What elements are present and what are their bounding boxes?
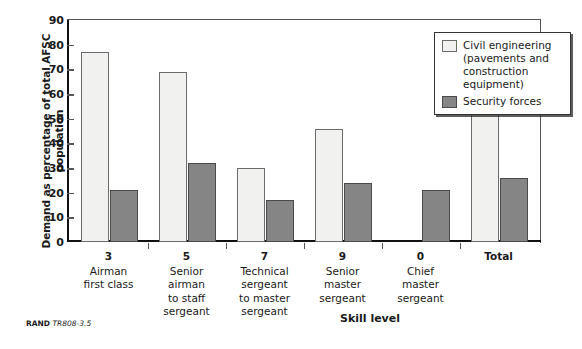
x-category-label-5: 5 Seniorairmanto staffsergeant — [148, 250, 226, 319]
legend-swatch-civil-engineering — [442, 40, 457, 52]
bar-civil-engineering-7 — [237, 168, 265, 242]
source-note: RAND TR808-3.5 — [26, 319, 91, 328]
bar-group-3 — [70, 20, 148, 242]
y-tick-label-0: 0 — [0, 236, 64, 249]
bar-security-forces-9 — [344, 183, 372, 242]
x-category-code-3: 3 — [70, 250, 148, 264]
x-tick-mark-1 — [148, 243, 150, 249]
y-tick-label-70: 70 — [0, 63, 64, 76]
chart-legend: Civil engineering (pavements and constru… — [434, 32, 571, 115]
y-tick-label-80: 80 — [0, 38, 64, 51]
x-category-name-9: Seniormastersergeant — [304, 265, 382, 306]
x-category-name-5: Seniorairmanto staffsergeant — [148, 265, 226, 319]
bar-security-forces-0 — [422, 190, 450, 242]
x-category-name-7: Technicalsergeantto mastersergeant — [226, 265, 304, 319]
y-tick-label-40: 40 — [0, 137, 64, 150]
x-category-name-0: Chiefmastersergeant — [382, 265, 460, 306]
chart-figure: Demand as percentage of total AFSC popul… — [0, 0, 582, 349]
y-tick-label-90: 90 — [0, 14, 64, 27]
bar-security-forces-3 — [110, 190, 138, 242]
x-category-name-3: Airmanfirst class — [70, 265, 148, 292]
bar-security-forces-5 — [188, 163, 216, 242]
legend-label-security-forces: Security forces — [463, 95, 541, 108]
y-tick-label-20: 20 — [0, 186, 64, 199]
y-tick-label-50: 50 — [0, 112, 64, 125]
bar-security-forces-7 — [266, 200, 294, 242]
y-tick-label-10: 10 — [0, 211, 64, 224]
legend-item-civil-engineering: Civil engineering (pavements and constru… — [442, 39, 563, 91]
y-tick-label-60: 60 — [0, 88, 64, 101]
bar-civil-engineering-total — [471, 99, 499, 242]
x-category-label-3: 3 Airmanfirst class — [70, 250, 148, 292]
legend-item-security-forces: Security forces — [442, 95, 563, 108]
bar-group-7 — [226, 20, 304, 242]
x-category-code-5: 5 — [148, 250, 226, 264]
legend-label-civil-engineering: Civil engineering (pavements and constru… — [463, 39, 563, 91]
bar-group-9 — [304, 20, 382, 242]
x-category-code-9: 9 — [304, 250, 382, 264]
bar-civil-engineering-3 — [81, 52, 109, 242]
x-axis-title: Skill level — [340, 312, 400, 325]
bar-civil-engineering-5 — [159, 72, 187, 242]
x-category-code-0: 0 — [382, 250, 460, 264]
x-tick-mark-2 — [226, 243, 228, 249]
bar-group-5 — [148, 20, 226, 242]
legend-swatch-security-forces — [442, 96, 457, 108]
x-category-label-7: 7 Technicalsergeantto mastersergeant — [226, 250, 304, 319]
source-document-id: TR808-3.5 — [52, 319, 91, 328]
x-tick-mark-4 — [382, 243, 384, 249]
source-brand: RAND — [26, 319, 50, 328]
y-tick-label-30: 30 — [0, 162, 64, 175]
x-category-code-total: Total — [460, 250, 538, 264]
bar-security-forces-total — [500, 178, 528, 242]
x-category-label-9: 9 Seniormastersergeant — [304, 250, 382, 305]
x-category-label-0: 0 Chiefmastersergeant — [382, 250, 460, 305]
bar-civil-engineering-9 — [315, 129, 343, 243]
x-tick-mark-3 — [304, 243, 306, 249]
x-category-label-total: Total — [460, 250, 538, 265]
x-tick-mark-5 — [460, 243, 462, 249]
x-category-code-7: 7 — [226, 250, 304, 264]
